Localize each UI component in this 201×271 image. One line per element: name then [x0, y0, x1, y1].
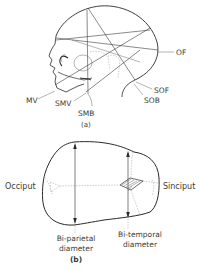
biparietal-arrowhead-top	[73, 143, 77, 149]
label-of: OF	[176, 48, 186, 57]
posterior-fontanelle	[44, 176, 60, 194]
cranium-outline	[56, 6, 158, 80]
caption-a: (a)	[81, 121, 91, 129]
sob-diameter-line	[56, 30, 150, 40]
sagittal-suture	[60, 185, 121, 186]
smb-diameter-line	[87, 10, 88, 94]
sof-diameter-line	[88, 8, 135, 80]
label-bitemporal-2: diameter	[123, 240, 158, 249]
extra-diameter-line	[72, 40, 140, 62]
mv-leader	[38, 91, 55, 99]
smv-leader	[74, 93, 86, 101]
biparietal-arrowhead-bottom	[73, 218, 77, 224]
label-biparietal-2: diameter	[59, 244, 94, 253]
label-biparietal-1: Bi-parietal	[57, 234, 96, 243]
smv-diameter-line	[86, 50, 140, 92]
figure-b-superior-skull: Occiput Sinciput Bi-parietal diameter Bi…	[5, 142, 195, 264]
fetal-skull-diagram: OF SOF SOB MV SMV SMB (a) Occipu	[0, 0, 201, 271]
skull-top-outline	[42, 142, 159, 226]
label-sof: SOF	[154, 86, 169, 95]
caption-b: (b)	[70, 255, 82, 264]
ear-region	[74, 55, 92, 71]
neck-curve	[122, 80, 135, 97]
label-sinciput: Sinciput	[163, 182, 195, 191]
label-sob: SOB	[144, 96, 160, 105]
mv-diameter-line	[55, 28, 150, 85]
smb-leader	[88, 94, 92, 106]
frontal-suture	[143, 181, 158, 183]
bitemporal-arrowhead-top	[126, 151, 130, 157]
label-mv: MV	[26, 96, 38, 105]
label-smb: SMB	[78, 109, 94, 118]
face-profile	[49, 36, 84, 92]
label-smv: SMV	[55, 99, 72, 108]
label-occiput: Occiput	[5, 182, 36, 191]
of-diameter-line	[56, 38, 158, 50]
sof-leader	[136, 82, 152, 89]
label-bitemporal-1: Bi-temporal	[118, 230, 162, 239]
sob-leader	[134, 84, 143, 95]
figure-a-lateral-skull: OF SOF SOB MV SMV SMB (a)	[26, 6, 186, 129]
